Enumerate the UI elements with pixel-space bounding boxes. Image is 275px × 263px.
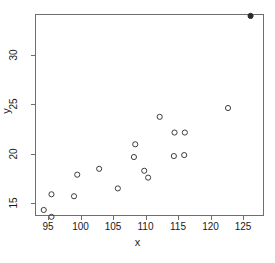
x-tick-mark bbox=[81, 216, 82, 220]
x-tick-mark bbox=[48, 216, 49, 220]
data-point bbox=[131, 154, 136, 159]
data-point bbox=[49, 214, 54, 219]
data-point bbox=[133, 142, 138, 147]
y-tick-label: 15 bbox=[8, 188, 20, 218]
x-tick-label: 120 bbox=[196, 221, 226, 233]
y-tick-mark bbox=[31, 104, 35, 105]
data-point bbox=[142, 168, 147, 173]
x-tick-label: 100 bbox=[66, 221, 96, 233]
x-tick-label: 105 bbox=[98, 221, 128, 233]
x-tick-label: 95 bbox=[33, 221, 63, 233]
data-point bbox=[225, 105, 230, 110]
y-tick-mark bbox=[31, 203, 35, 204]
x-tick-label: 125 bbox=[228, 221, 258, 233]
scatter-plot: 9510010511011512012515202530 x y bbox=[0, 0, 275, 263]
data-point bbox=[49, 192, 54, 197]
y-tick-label: 30 bbox=[8, 40, 20, 70]
y-tick-label: 20 bbox=[8, 139, 20, 169]
y-tick-mark bbox=[31, 55, 35, 56]
x-tick-label: 110 bbox=[131, 221, 161, 233]
x-tick-mark bbox=[243, 216, 244, 220]
data-point bbox=[71, 194, 76, 199]
data-point bbox=[75, 172, 80, 177]
data-points-layer bbox=[36, 15, 263, 215]
data-point bbox=[97, 166, 102, 171]
data-point-outlier bbox=[248, 13, 253, 18]
data-point bbox=[115, 186, 120, 191]
x-tick-mark bbox=[146, 216, 147, 220]
data-point bbox=[182, 153, 187, 158]
data-point bbox=[171, 153, 176, 158]
data-point bbox=[146, 175, 151, 180]
data-point bbox=[41, 207, 46, 212]
y-tick-mark bbox=[31, 154, 35, 155]
x-tick-label: 115 bbox=[163, 221, 193, 233]
plot-frame bbox=[35, 14, 264, 216]
x-axis-label: x bbox=[0, 236, 275, 248]
data-point bbox=[172, 130, 177, 135]
data-point bbox=[157, 114, 162, 119]
y-axis-label: y bbox=[0, 96, 12, 126]
x-tick-mark bbox=[113, 216, 114, 220]
x-tick-mark bbox=[178, 216, 179, 220]
data-point bbox=[182, 130, 187, 135]
x-tick-mark bbox=[211, 216, 212, 220]
